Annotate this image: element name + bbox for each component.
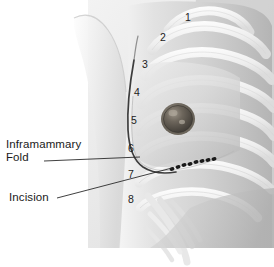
rib-number-8: 8 <box>128 193 134 205</box>
anatomy-illustration: InframammaryFoldIncision 12345678 <box>0 0 274 267</box>
rib-number-5: 5 <box>131 114 137 126</box>
annotation-label-incision: Incision <box>9 191 49 203</box>
rib-number-2: 2 <box>160 31 166 43</box>
rib-number-1: 1 <box>185 11 191 23</box>
annotation-label-inframammary-fold-line2: Fold <box>6 151 29 163</box>
annotation-label-inframammary-fold: Inframammary <box>6 138 81 150</box>
figure-container: InframammaryFoldIncision 12345678 Infram… <box>0 0 274 267</box>
nipple-areola-complex <box>161 103 195 135</box>
rib-number-4: 4 <box>134 86 140 98</box>
rib-number-6: 6 <box>128 142 134 154</box>
rib-number-3: 3 <box>142 58 148 70</box>
rib-number-7: 7 <box>128 168 134 180</box>
